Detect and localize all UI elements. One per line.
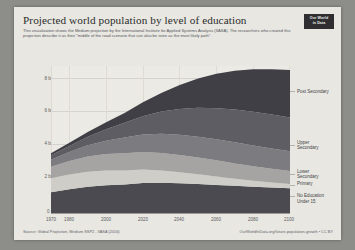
x-axis-line — [51, 213, 290, 214]
stacked-area-series-group — [51, 66, 290, 214]
chart-header: Projected world population by level of e… — [23, 14, 295, 39]
x-tick-1970: 1970 — [46, 217, 56, 222]
credit-note[interactable]: OurWorldInData.org/future-population-gro… — [240, 229, 333, 234]
legend-tick-upper-secondary — [290, 145, 295, 146]
page-title: Projected world population by level of e… — [23, 14, 295, 26]
x-tick-1980: 1980 — [64, 217, 74, 222]
source-note: Source: Global Projection, Medium SSP2 -… — [23, 229, 120, 234]
x-tick-2080: 2080 — [248, 217, 258, 222]
x-tick-2060: 2060 — [211, 217, 221, 222]
legend-item-under-15[interactable]: Under 15 — [297, 199, 316, 204]
legend-tick-lower-secondary — [290, 174, 295, 175]
chart-plot-area — [51, 66, 290, 214]
chart-card: Projected world population by level of e… — [14, 7, 341, 240]
chart-subtitle: This visualization shows the Medium proj… — [23, 28, 291, 39]
legend-item-post-secondary[interactable]: Post Secondary — [297, 89, 329, 94]
legend-item-lower-secondary[interactable]: Lower Secondary — [297, 169, 319, 179]
x-tick-2000: 2000 — [101, 217, 111, 222]
legend-tick-post-secondary — [290, 91, 295, 92]
x-tick-2040: 2040 — [174, 217, 184, 222]
y-tick-zero: 0 — [47, 209, 50, 214]
legend-item-no-education[interactable]: No Education — [297, 193, 324, 198]
owid-logo-line2: in Data — [304, 21, 334, 26]
area-band-under-15 — [51, 183, 290, 214]
legend-item-primary[interactable]: Primary — [297, 181, 313, 186]
x-tick-2020: 2020 — [138, 217, 148, 222]
legend-item-upper-secondary[interactable]: Upper Secondary — [297, 140, 319, 150]
legend-tick-primary — [290, 185, 295, 186]
x-tick-2100: 2100 — [284, 217, 294, 222]
legend-tick-no-education — [290, 196, 295, 197]
owid-logo[interactable]: Our World in Data — [304, 14, 334, 29]
